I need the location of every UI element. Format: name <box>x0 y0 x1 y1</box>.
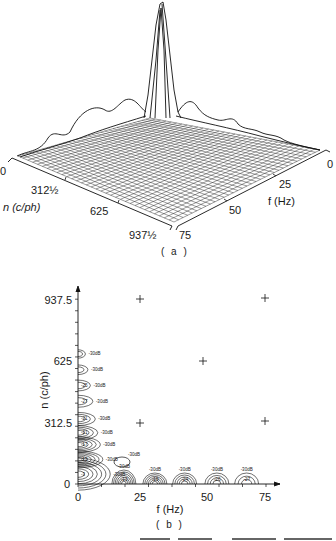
svg-text:-30dB: -30dB <box>241 467 253 472</box>
svg-text:-30dB: -30dB <box>93 383 105 388</box>
n-axis-ticks <box>65 177 119 203</box>
n-tick-937: 937½ <box>129 229 157 241</box>
svg-text:-30dB: -30dB <box>98 416 110 421</box>
svg-text:-30dB: -30dB <box>91 367 103 372</box>
caption-fragment <box>140 538 332 540</box>
svg-text:-30dB: -30dB <box>106 457 118 462</box>
svg-text:-17: -17 <box>81 442 88 447</box>
y-tick-312-5: 312.5 <box>44 417 72 429</box>
svg-text:-24: -24 <box>182 477 189 482</box>
x-tick-50: 50 <box>201 491 213 503</box>
panel-b-contour-plot: 0 312.5 625 937.5 0 25 50 75 f (Hz) n (c… <box>38 286 280 530</box>
plus-markers <box>136 294 269 427</box>
svg-text:-30dB: -30dB <box>149 467 161 472</box>
svg-text:-30dB: -30dB <box>113 472 125 477</box>
svg-text:-30dB: -30dB <box>128 452 140 457</box>
svg-text:-25: -25 <box>81 383 88 388</box>
svg-text:-21: -21 <box>81 416 88 421</box>
svg-text:-27: -27 <box>81 399 88 404</box>
f-tick-25: 25 <box>279 178 291 190</box>
y-tick-937-5: 937.5 <box>44 294 72 306</box>
svg-text:-30dB: -30dB <box>103 442 115 447</box>
svg-text:-30dB: -30dB <box>96 399 108 404</box>
f-tick-0: 0 <box>327 158 333 170</box>
n-tick-0: 0 <box>0 165 6 177</box>
x-axis-label: f (Hz) <box>157 503 184 515</box>
svg-text:-12: -12 <box>81 457 88 462</box>
y-tick-625: 625 <box>54 355 72 367</box>
svg-text:-30dB: -30dB <box>101 430 113 435</box>
svg-text:-30dB: -30dB <box>211 467 223 472</box>
x-tick-75: 75 <box>259 491 271 503</box>
panel-a-surface-plot: 0 312½ n (c/ph) 625 937½ 0 25 f (Hz) 50 … <box>0 2 333 257</box>
svg-text:-30dB: -30dB <box>88 351 100 356</box>
svg-text:-19: -19 <box>152 477 159 482</box>
figure: 0 312½ n (c/ph) 625 937½ 0 25 f (Hz) 50 … <box>0 0 336 541</box>
surface-ridges <box>17 2 320 157</box>
svg-text:-3: -3 <box>81 472 85 477</box>
x-tick-25: 25 <box>134 491 146 503</box>
svg-text:-13: -13 <box>121 477 128 482</box>
svg-text:-30dB: -30dB <box>118 464 130 469</box>
svg-text:-27: -27 <box>244 477 251 482</box>
panel-b-caption: ( b ) <box>156 519 184 530</box>
svg-text:-26: -26 <box>214 477 221 482</box>
x-axis-ticks <box>78 484 266 487</box>
f-axis-label: f (Hz) <box>268 195 295 207</box>
svg-text:-21: -21 <box>81 430 88 435</box>
db-labels: -30dB-3-30dB-12-30dB-17-30dB-21-30dB-21-… <box>81 351 253 482</box>
f-tick-75: 75 <box>179 229 191 241</box>
svg-text:-30dB: -30dB <box>179 467 191 472</box>
y-axis-label: n (c/ph) <box>38 371 50 408</box>
x-tick-0: 0 <box>75 491 81 503</box>
y-tick-0: 0 <box>64 478 70 490</box>
n-tick-312: 312½ <box>31 184 59 196</box>
n-tick-625: 625 <box>90 205 108 217</box>
panel-a-caption: ( a ) <box>161 246 189 257</box>
n-axis-label: n (c/ph) <box>3 201 41 213</box>
f-tick-50: 50 <box>229 204 241 216</box>
